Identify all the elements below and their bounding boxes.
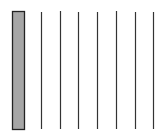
vertical-lines-group xyxy=(42,11,154,129)
filled-bar xyxy=(13,12,25,130)
diagram-canvas xyxy=(0,0,165,136)
